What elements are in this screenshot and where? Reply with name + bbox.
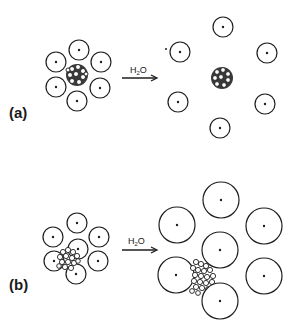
reagent-label-a: H2O (130, 65, 147, 76)
panel-b-initial-cluster (43, 213, 109, 284)
panel-b-arrow: H2O (122, 236, 157, 253)
panel-a-initial-cluster (46, 40, 111, 111)
panel-b-label: (b) (9, 276, 28, 293)
panel-b-swollen-result (158, 182, 282, 319)
aggregate-blob (211, 67, 233, 89)
panel-b: H2O (b) (9, 182, 282, 319)
aggregate-blob (66, 64, 88, 86)
schematic-diagram: H2O (a) (0, 0, 300, 331)
reagent-label-b: H2O (128, 236, 145, 247)
panel-a-arrow: H2O (122, 65, 157, 81)
panel-a-dispersed-result (165, 17, 277, 138)
panel-a: H2O (a) (9, 17, 277, 138)
panel-a-label: (a) (9, 104, 27, 121)
